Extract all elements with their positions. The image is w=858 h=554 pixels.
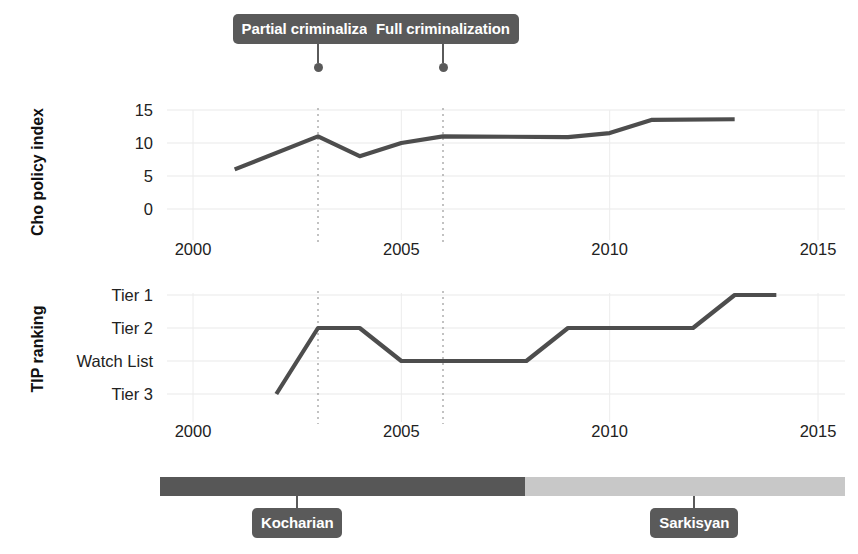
- annotation-callout-full-criminalization: Full criminalization: [367, 14, 519, 44]
- x-tick-label-top-2010: 2010: [591, 240, 628, 259]
- annotation-stem-full: [442, 44, 444, 63]
- y-tick-label-tip-3: Tier 3: [55, 385, 153, 404]
- timeline-label-sarkisyan: Sarkisyan: [650, 508, 738, 538]
- x-tick-label-bottom-2015: 2015: [800, 422, 837, 441]
- annotation-dot-full: [439, 63, 448, 72]
- timeline-label-kocharian: Kocharian: [252, 508, 342, 538]
- x-tick-label-bottom-2005: 2005: [383, 422, 420, 441]
- x-tick-label-top-2000: 2000: [175, 240, 212, 259]
- annotation-dot-partial: [314, 63, 323, 72]
- y-tick-label-cho-0: 0: [95, 200, 153, 219]
- timeline-stem-sarkisyan: [693, 496, 695, 508]
- timeline-segment-kocharian: [160, 477, 525, 496]
- x-tick-label-bottom-2010: 2010: [591, 422, 628, 441]
- y-tick-label-cho-5: 5: [95, 167, 153, 186]
- x-tick-label-bottom-2000: 2000: [175, 422, 212, 441]
- y-tick-label-tip-1: Tier 2: [55, 319, 153, 338]
- y-tick-label-cho-15: 15: [95, 101, 153, 120]
- timeline-stem-kocharian: [296, 496, 298, 508]
- figure-root: Partial criminalization Full criminaliza…: [0, 0, 858, 554]
- y-tick-label-cho-10: 10: [95, 134, 153, 153]
- timeline-segment-sarkisyan: [525, 477, 845, 496]
- annotation-stem-partial: [317, 44, 319, 63]
- x-tick-label-top-2015: 2015: [800, 240, 837, 259]
- y-tick-label-tip-2: Watch List: [55, 352, 153, 371]
- x-tick-label-top-2005: 2005: [383, 240, 420, 259]
- y-tick-label-tip-0: Tier 1: [55, 286, 153, 305]
